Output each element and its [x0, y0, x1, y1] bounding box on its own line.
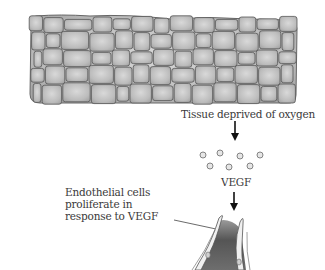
tissue-cell: [282, 33, 294, 51]
tissue-cell: [133, 65, 149, 83]
tissue-cell: [192, 85, 212, 104]
tissue-cell: [281, 65, 293, 83]
tissue-cell: [32, 32, 45, 50]
tissue-deprived-label: Tissue deprived of oxygen: [181, 108, 315, 120]
tissue-cell: [214, 83, 236, 102]
vegf-molecule: [217, 150, 223, 156]
tissue-cell: [175, 51, 192, 67]
tissue-cell: [93, 17, 112, 32]
tissue-cell: [90, 33, 114, 51]
tissue-cell: [92, 52, 111, 64]
label-leader-line: [174, 220, 216, 229]
vegf-label: VEGF: [221, 176, 251, 188]
endothelial-label-line: Endothelial cells: [65, 186, 158, 198]
tissue-cell: [45, 66, 64, 84]
tissue-cell: [215, 51, 237, 67]
tissue-cell: [134, 33, 150, 51]
tissue-cell: [44, 18, 63, 33]
endothelial-label-line: proliferate in: [65, 198, 158, 210]
tissue-cell: [215, 19, 237, 30]
vegf-molecule: [207, 163, 213, 169]
tissue-cell: [154, 18, 169, 33]
tissue-cell: [64, 51, 91, 67]
tissue-cell: [42, 85, 61, 104]
tissue-cell: [91, 85, 115, 104]
tissue-cell: [33, 83, 41, 102]
arrow-down-icon: [231, 121, 239, 141]
tissue-cell: [112, 50, 129, 66]
tissue-cell: [63, 83, 90, 102]
tissue-cell: [195, 66, 215, 84]
arrow-down-icon: [230, 192, 238, 211]
endothelial-nucleus: [237, 259, 242, 265]
tissue-cell: [280, 16, 297, 31]
vegf-molecule: [200, 152, 206, 158]
vegf-molecule: [257, 152, 263, 158]
tissue-cell: [66, 68, 88, 82]
tissue-cell: [174, 83, 191, 102]
diagram-canvas: [0, 0, 325, 270]
tissue-cell: [239, 17, 256, 32]
tissue-cell: [256, 50, 277, 66]
tissue-cell: [130, 84, 151, 103]
tissue-cell: [238, 52, 255, 64]
endothelial-nucleus: [206, 252, 211, 258]
tissue-cell: [237, 85, 259, 104]
tissue-cell: [172, 68, 194, 82]
tissue-cell: [115, 67, 132, 85]
tissue-cell: [278, 84, 295, 103]
endothelial-label-line: response to VEGF: [65, 210, 158, 222]
tissue-cell: [212, 31, 234, 49]
tissue-cell: [43, 49, 62, 65]
vegf-molecule: [247, 163, 253, 169]
vegf-molecule: [237, 153, 243, 159]
tissue-cell: [173, 32, 195, 50]
tissue-cell: [31, 68, 44, 82]
tissue-cell: [46, 34, 60, 48]
tissue-cell: [64, 19, 91, 30]
oxygen-deprived-tissue: [29, 15, 297, 104]
tissue-cell: [259, 31, 280, 49]
tissue-cell: [89, 65, 113, 83]
endothelial-wall-right-outer: [247, 232, 250, 270]
tissue-cell: [29, 16, 42, 31]
vegf-molecule: [226, 164, 232, 170]
tissue-cell: [113, 19, 130, 30]
tissue-cell: [194, 18, 214, 33]
tissue-cell: [153, 86, 173, 101]
vegf-molecules: [200, 150, 263, 170]
tissue-cell: [115, 31, 132, 49]
tissue-cell: [259, 67, 280, 85]
tissue-cell: [150, 67, 170, 85]
tissue-cell: [279, 52, 296, 64]
tissue-cell: [261, 86, 277, 101]
tissue-cell: [257, 19, 278, 30]
tissue-cell: [196, 34, 211, 48]
endothelial-label: Endothelial cells proliferate in respons…: [65, 186, 158, 222]
tissue-cell: [153, 49, 173, 65]
tissue-cell: [132, 16, 153, 31]
tissue-cell: [117, 86, 129, 101]
blood-vessel: [192, 216, 250, 270]
tissue-cell: [151, 34, 171, 48]
tissue-cell: [236, 33, 258, 51]
tissue-cell: [235, 65, 257, 83]
tissue-cell: [131, 52, 152, 64]
tissue-cell: [170, 16, 192, 31]
tissue-cell: [193, 49, 213, 65]
tissue-cell: [217, 68, 234, 82]
tissue-cell: [34, 51, 42, 67]
tissue-cell: [61, 31, 88, 49]
